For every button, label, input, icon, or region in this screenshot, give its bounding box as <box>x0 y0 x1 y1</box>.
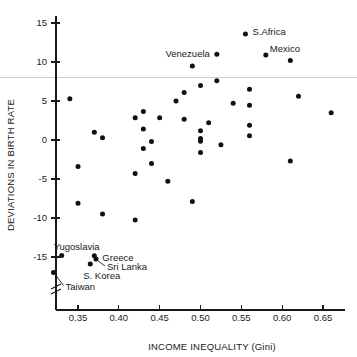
data-point <box>214 52 219 57</box>
data-point <box>141 127 146 132</box>
data-point <box>198 83 203 88</box>
data-point <box>288 58 293 63</box>
data-point <box>149 139 154 144</box>
data-point <box>174 99 179 104</box>
data-point <box>133 217 138 222</box>
x-tick-label: 0.55 <box>232 312 251 323</box>
y-axis-title: DEVIATIONS IN BIRTH RATE <box>5 99 16 231</box>
x-tick-label: 0.40 <box>110 312 129 323</box>
y-tick-label: 0 <box>42 134 47 145</box>
data-point <box>329 110 334 115</box>
point-label-venezuela: Venezuela <box>165 48 210 59</box>
data-point <box>190 199 195 204</box>
y-tick-label: 10 <box>36 56 47 67</box>
data-point <box>247 87 252 92</box>
y-tick-label: 15 <box>36 17 47 28</box>
data-point <box>243 31 248 36</box>
data-point <box>157 115 162 120</box>
data-point <box>100 135 105 140</box>
point-label-taiwan: Taiwan <box>66 281 96 292</box>
data-point <box>218 142 223 147</box>
data-point <box>76 164 81 169</box>
data-point <box>247 123 252 128</box>
data-point <box>133 171 138 176</box>
data-point <box>198 150 203 155</box>
x-tick-label: 0.60 <box>273 312 292 323</box>
data-point <box>133 115 138 120</box>
data-point <box>182 90 187 95</box>
x-tick-label: 0.50 <box>191 312 210 323</box>
data-point <box>190 63 195 68</box>
tick-label-group: 151050-5-10-150.350.400.450.500.550.600.… <box>33 17 332 323</box>
point-label-mexico: Mexico <box>270 43 300 54</box>
scatter-plot-figure: 151050-5-10-150.350.400.450.500.550.600.… <box>0 0 357 357</box>
tick-group <box>51 23 323 310</box>
data-point <box>263 52 268 57</box>
data-point <box>214 78 219 83</box>
data-point <box>288 159 293 164</box>
x-tick-label: 0.35 <box>69 312 88 323</box>
point-label-s-africa: S.Africa <box>252 26 286 37</box>
point-label-yugoslavia: Yugoslavia <box>54 241 101 252</box>
data-point <box>100 212 105 217</box>
data-point <box>76 201 81 206</box>
data-point <box>141 146 146 151</box>
data-point <box>198 139 203 144</box>
data-point <box>247 133 252 138</box>
point-label-s-korea: S. Korea <box>83 270 121 281</box>
axes-group <box>51 16 345 310</box>
data-point <box>59 253 64 258</box>
data-point-group <box>51 31 334 275</box>
point-annotation-group: S.AfricaVenezuelaMexicoYugoslaviaGreeceS… <box>54 26 300 292</box>
data-point <box>165 179 170 184</box>
data-point <box>67 96 72 101</box>
data-point <box>247 103 252 108</box>
data-point <box>296 94 301 99</box>
data-point <box>92 130 97 135</box>
y-tick-label: -10 <box>33 212 47 223</box>
data-point <box>88 262 93 267</box>
y-tick-label: -15 <box>33 251 47 262</box>
data-point <box>198 128 203 133</box>
y-tick-label: 5 <box>42 95 47 106</box>
x-tick-label: 0.65 <box>314 312 333 323</box>
data-point <box>149 161 154 166</box>
data-point <box>206 120 211 125</box>
x-tick-label: 0.45 <box>150 312 169 323</box>
data-point <box>231 101 236 106</box>
data-point <box>182 117 187 122</box>
y-tick-label: -5 <box>39 173 47 184</box>
data-point <box>141 109 146 114</box>
plot-canvas: 151050-5-10-150.350.400.450.500.550.600.… <box>0 0 357 357</box>
x-axis-title: INCOME INEQUALITY (Gini) <box>148 341 276 352</box>
